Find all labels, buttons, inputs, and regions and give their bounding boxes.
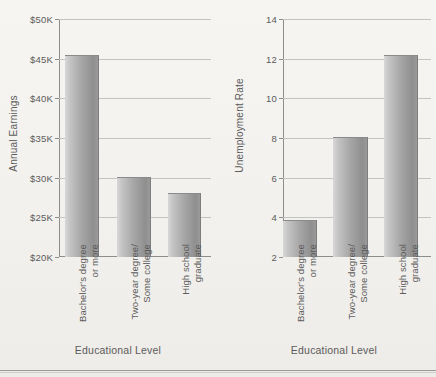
plot-area-right: 14 12 10 8 6 4 2 <box>283 19 431 257</box>
bar-right-two-year <box>333 137 368 257</box>
y-tick-label-right-2: 2 <box>272 252 277 263</box>
tick-left-30k <box>55 178 59 179</box>
x-category-left-two-year-line1: Two-year degree/ <box>129 244 140 320</box>
bar-left-bachelors <box>65 55 99 257</box>
y-tick-label-left-45k: $45K <box>30 53 53 64</box>
tick-left-40k <box>55 98 59 99</box>
x-category-left-high-school-line2: graduate <box>192 244 204 295</box>
x-category-left-high-school-line1: High school <box>180 244 191 295</box>
footer-rule <box>0 370 436 371</box>
y-tick-label-left-25k: $25K <box>30 212 53 223</box>
tick-left-45k <box>55 59 59 60</box>
tick-right-14 <box>279 19 283 20</box>
x-category-right-bachelors-line1: Bachelor's degree <box>295 244 306 322</box>
y-axis-title-right: Unemployment Rate <box>234 66 245 186</box>
y-tick-label-right-4: 4 <box>272 212 277 223</box>
x-category-right-two-year-line1: Two-year degree/ <box>346 244 357 320</box>
tick-right-4 <box>279 217 283 218</box>
x-category-right-bachelors-line2: or more <box>307 244 319 322</box>
y-tick-label-left-30k: $30K <box>30 172 53 183</box>
tick-left-20k <box>55 257 59 258</box>
plot-area-left: $50K $45K $40K $35K $30K $25K $20K <box>59 19 211 257</box>
x-category-left-bachelors-line1: Bachelor's degree <box>77 244 88 322</box>
y-tick-label-right-14: 14 <box>266 14 277 25</box>
tick-right-6 <box>279 178 283 179</box>
y-tick-label-left-50k: $50K <box>30 14 53 25</box>
tick-right-10 <box>279 98 283 99</box>
tick-right-2 <box>279 257 283 258</box>
y-tick-label-left-40k: $40K <box>30 93 53 104</box>
x-category-left-two-year-line2: Some college <box>141 244 153 320</box>
x-category-right-high-school-line2: graduate <box>409 244 421 295</box>
tick-left-50k <box>55 19 59 20</box>
tick-left-35k <box>55 138 59 139</box>
tick-left-25k <box>55 217 59 218</box>
x-category-right-two-year-line2: Some college <box>358 244 370 320</box>
y-tick-label-right-6: 6 <box>272 172 277 183</box>
y-tick-label-right-8: 8 <box>272 133 277 144</box>
tick-right-12 <box>279 59 283 60</box>
chart-annual-earnings: Annual Earnings $50K $45K $40K $35K $30K… <box>0 0 218 377</box>
gridline-left-50k <box>59 19 211 20</box>
chart-unemployment-rate: Unemployment Rate 14 12 10 8 6 4 2 <box>218 0 436 377</box>
x-axis-title-right: Educational Level <box>234 344 434 356</box>
page-canvas: Annual Earnings $50K $45K $40K $35K $30K… <box>0 0 436 377</box>
tick-right-8 <box>279 138 283 139</box>
y-tick-label-left-35k: $35K <box>30 133 53 144</box>
x-axis-title-left: Educational Level <box>18 344 218 356</box>
y-tick-label-left-20k: $20K <box>30 252 53 263</box>
gridline-right-14 <box>283 19 431 20</box>
bar-right-high-school <box>384 55 418 257</box>
y-tick-label-right-12: 12 <box>266 53 277 64</box>
y-tick-label-right-10: 10 <box>266 93 277 104</box>
y-axis-title-left: Annual Earnings <box>8 79 19 189</box>
footer-rule-secondary <box>0 372 436 373</box>
x-category-right-high-school-line1: High school <box>397 244 408 295</box>
x-category-left-bachelors-line2: or more <box>89 244 101 322</box>
